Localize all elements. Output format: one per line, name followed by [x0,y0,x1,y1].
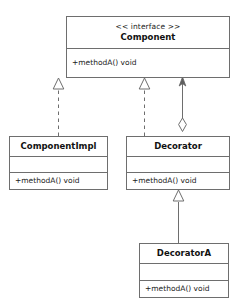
class-methods-componentimpl: +methodA() void [10,172,107,189]
uml-class-decoratora[interactable]: DecoratorA +methodA() void [139,243,229,298]
uml-class-diagram: Component --> << interface >> Component … [0,0,249,307]
class-name-label: Component [121,32,176,43]
method-label: +methodA() void [15,176,80,186]
uml-class-component[interactable]: << interface >> Component +methodA() voi… [66,16,230,78]
class-methods-component: +methodA() void [67,48,229,77]
class-attributes-componentimpl [10,156,107,173]
method-label: +methodA() void [145,284,210,294]
class-name-label: Decorator [154,141,202,152]
class-name-label: DecoratorA [157,248,211,259]
class-header-component: << interface >> Component [67,17,229,48]
class-attributes-decorator [127,156,229,173]
class-header-decoratora: DecoratorA [140,244,228,263]
class-attributes-decoratora [140,263,228,280]
connector-decoratora-extends-decorator [173,190,184,243]
hollow-diamond-icon [179,118,187,132]
class-header-componentimpl: ComponentImpl [10,137,107,156]
connector-componentimpl-realizes-component [53,78,64,136]
connector-decorator-realizes-component [139,78,150,136]
hollow-triangle-arrowhead-icon [53,78,64,89]
stereotype-label: << interface >> [116,22,181,32]
uml-class-decorator[interactable]: Decorator +methodA() void [126,136,230,190]
hollow-triangle-arrowhead-icon [173,190,184,201]
class-methods-decoratora: +methodA() void [140,280,228,297]
method-label: +methodA() void [132,176,197,186]
method-label: +methodA() void [72,58,137,68]
connector-decorator-aggregates-component [179,77,187,132]
hollow-triangle-arrowhead-icon [139,78,150,89]
class-name-label: ComponentImpl [21,141,97,152]
uml-class-componentimpl[interactable]: ComponentImpl +methodA() void [9,136,108,190]
class-methods-decorator: +methodA() void [127,172,229,189]
class-header-decorator: Decorator [127,137,229,156]
